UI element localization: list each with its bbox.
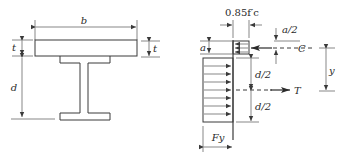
c-label: C (298, 43, 306, 54)
t-force-label: T (294, 85, 302, 96)
b-label: b (81, 15, 87, 26)
concrete-slab (35, 40, 137, 56)
steel-i-beam (60, 56, 110, 120)
t-right-label: t (153, 43, 158, 54)
a-label: a (200, 42, 206, 53)
tension-stress-arrows (204, 66, 231, 114)
stress-distribution: 0.85f′c a C a/2 (200, 7, 335, 152)
t-left-label: t (12, 42, 17, 53)
fy-label: Fy (211, 132, 225, 143)
concrete-stress-label: 0.85f′c (225, 7, 259, 18)
cross-section: b t t d (11, 15, 160, 120)
composite-beam-diagram: b t t d 0.85f′c a (0, 0, 349, 163)
d-half-bottom-label: d/2 (255, 101, 271, 112)
d-label: d (11, 82, 17, 93)
a-half-label: a/2 (282, 24, 298, 35)
y-label: y (328, 65, 335, 76)
d-half-top-label: d/2 (255, 69, 271, 80)
